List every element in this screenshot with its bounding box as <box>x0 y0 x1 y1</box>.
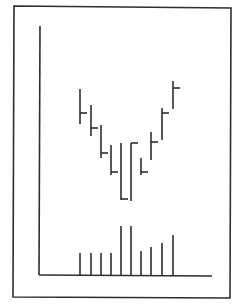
ohlc-volume-chart <box>0 0 246 307</box>
outer-frame <box>13 6 231 298</box>
y-axis <box>39 26 40 275</box>
x-axis <box>39 275 212 276</box>
price-bars <box>80 81 180 201</box>
volume-bars <box>80 226 173 275</box>
